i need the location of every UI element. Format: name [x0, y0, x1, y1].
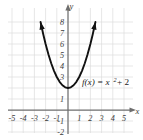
x-tick: 4	[111, 114, 115, 123]
x-tick: 2	[88, 114, 92, 123]
x-tick: 5	[122, 114, 126, 123]
x-tick: -2	[42, 114, 49, 123]
y-tick: -2	[57, 128, 64, 137]
function-label-tail: + 2	[117, 77, 129, 87]
y-tick: 5	[60, 51, 64, 60]
x-axis-label: x	[135, 106, 140, 116]
y-tick: -1	[57, 117, 64, 126]
x-tick: 1	[77, 114, 81, 123]
x-tick: 3	[99, 114, 104, 123]
y-tick: 4	[60, 62, 64, 71]
graph-figure: x y -5 -4 -3 -2 -1 1 2 3 4 5 8 7 6 5 4 3…	[0, 0, 143, 140]
x-tick: -4	[20, 114, 27, 123]
y-tick: 1	[60, 95, 64, 104]
coordinate-plane-svg: x y -5 -4 -3 -2 -1 1 2 3 4 5 8 7 6 5 4 3…	[0, 0, 143, 140]
function-label-main: f(x) = x	[82, 77, 111, 87]
x-tick: -5	[9, 114, 16, 123]
x-tick: -3	[31, 114, 38, 123]
y-tick-labels: 8 7 6 5 4 3 1 -1 -2	[57, 18, 65, 137]
function-label: f(x) = x 2 + 2	[82, 76, 129, 88]
y-axis-label: y	[69, 1, 74, 11]
y-tick: 8	[60, 18, 64, 27]
y-tick: 6	[60, 40, 65, 49]
y-tick: 7	[60, 29, 65, 38]
